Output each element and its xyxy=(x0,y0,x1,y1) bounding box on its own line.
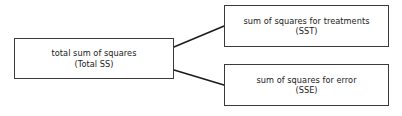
node-total-sum-of-squares-line-1: total sum of squares xyxy=(51,48,136,58)
diagram-canvas: total sum of squares (Total SS) sum of s… xyxy=(0,0,402,116)
node-sum-of-squares-error-line-1: sum of squares for error xyxy=(256,75,356,85)
node-sum-of-squares-treatments: sum of squares for treatments (SST) xyxy=(224,5,389,47)
node-sum-of-squares-treatments-line-2: (SST) xyxy=(295,26,317,36)
node-total-sum-of-squares: total sum of squares (Total SS) xyxy=(14,38,174,79)
node-sum-of-squares-treatments-line-1: sum of squares for treatments xyxy=(244,16,370,26)
connector-total-to-sse xyxy=(174,70,224,85)
node-sum-of-squares-error: sum of squares for error (SSE) xyxy=(224,64,389,106)
node-total-sum-of-squares-line-2: (Total SS) xyxy=(74,59,113,69)
node-sum-of-squares-error-line-2: (SSE) xyxy=(295,85,317,95)
connector-total-to-sst xyxy=(174,26,224,47)
